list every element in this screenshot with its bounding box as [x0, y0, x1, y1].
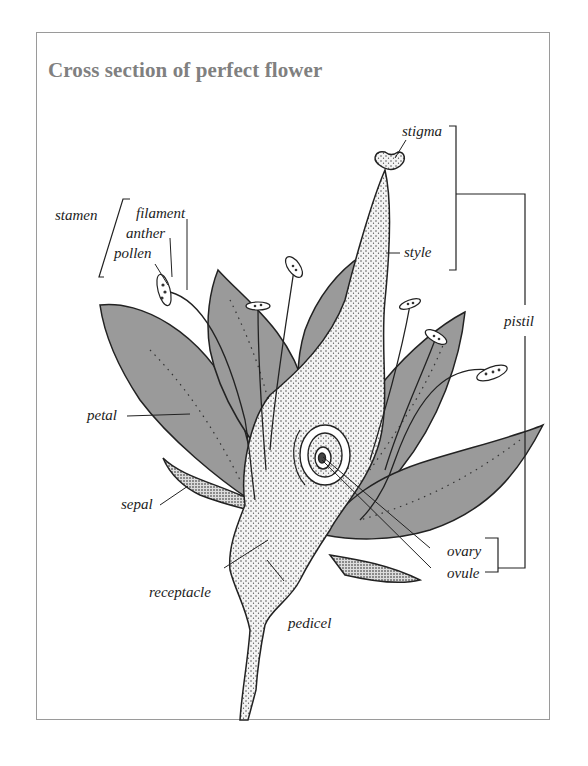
label-ovary: ovary — [447, 544, 481, 559]
label-petal: petal — [87, 408, 117, 423]
label-sepal: sepal — [121, 497, 153, 512]
label-receptacle: receptacle — [149, 585, 211, 600]
label-ovule: ovule — [447, 566, 479, 581]
stigma-shape — [375, 152, 404, 170]
label-stigma: stigma — [402, 124, 442, 139]
label-pistil: pistil — [504, 314, 534, 329]
flower-illustration — [0, 0, 588, 766]
label-pollen: pollen — [114, 246, 152, 261]
label-anther: anther — [126, 226, 165, 241]
label-stamen: stamen — [55, 208, 98, 223]
pistil-bracket-top — [456, 194, 525, 305]
label-style: style — [404, 245, 432, 260]
label-pedicel: pedicel — [288, 616, 331, 631]
ovary-ovule-bracket — [485, 538, 498, 572]
stigma-style-bracket — [449, 126, 456, 270]
label-filament: filament — [136, 206, 185, 221]
